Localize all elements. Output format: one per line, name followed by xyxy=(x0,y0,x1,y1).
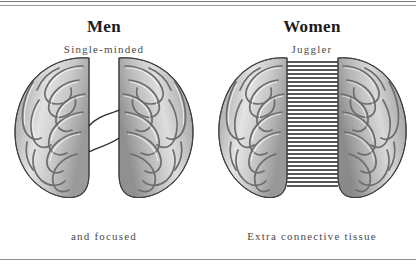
female-left-hemisphere xyxy=(218,58,286,198)
female-corpus-callosum-stripes xyxy=(287,60,338,192)
female-brain-illustration xyxy=(208,54,416,202)
panel-men-caption: and focused xyxy=(0,230,208,242)
male-right-hemisphere xyxy=(119,58,193,198)
male-brain-svg xyxy=(9,54,199,202)
male-brain-illustration xyxy=(0,54,208,202)
male-corpus-callosum-connectors xyxy=(89,110,119,152)
top-rule-upper xyxy=(0,1,416,2)
bottom-rule xyxy=(0,259,416,260)
brain-comparison-figure: Men Single-minded xyxy=(0,0,416,264)
male-left-hemisphere xyxy=(15,58,89,198)
panels-container: Men Single-minded xyxy=(0,6,416,258)
panel-women-caption: Extra connective tissue xyxy=(208,230,416,242)
female-brain-svg xyxy=(215,54,410,202)
panel-men: Men Single-minded xyxy=(0,6,208,258)
panel-men-title: Men xyxy=(87,18,121,35)
female-right-hemisphere xyxy=(338,58,406,198)
panel-women-title: Women xyxy=(283,18,341,35)
panel-women: Women Juggler xyxy=(208,6,416,258)
